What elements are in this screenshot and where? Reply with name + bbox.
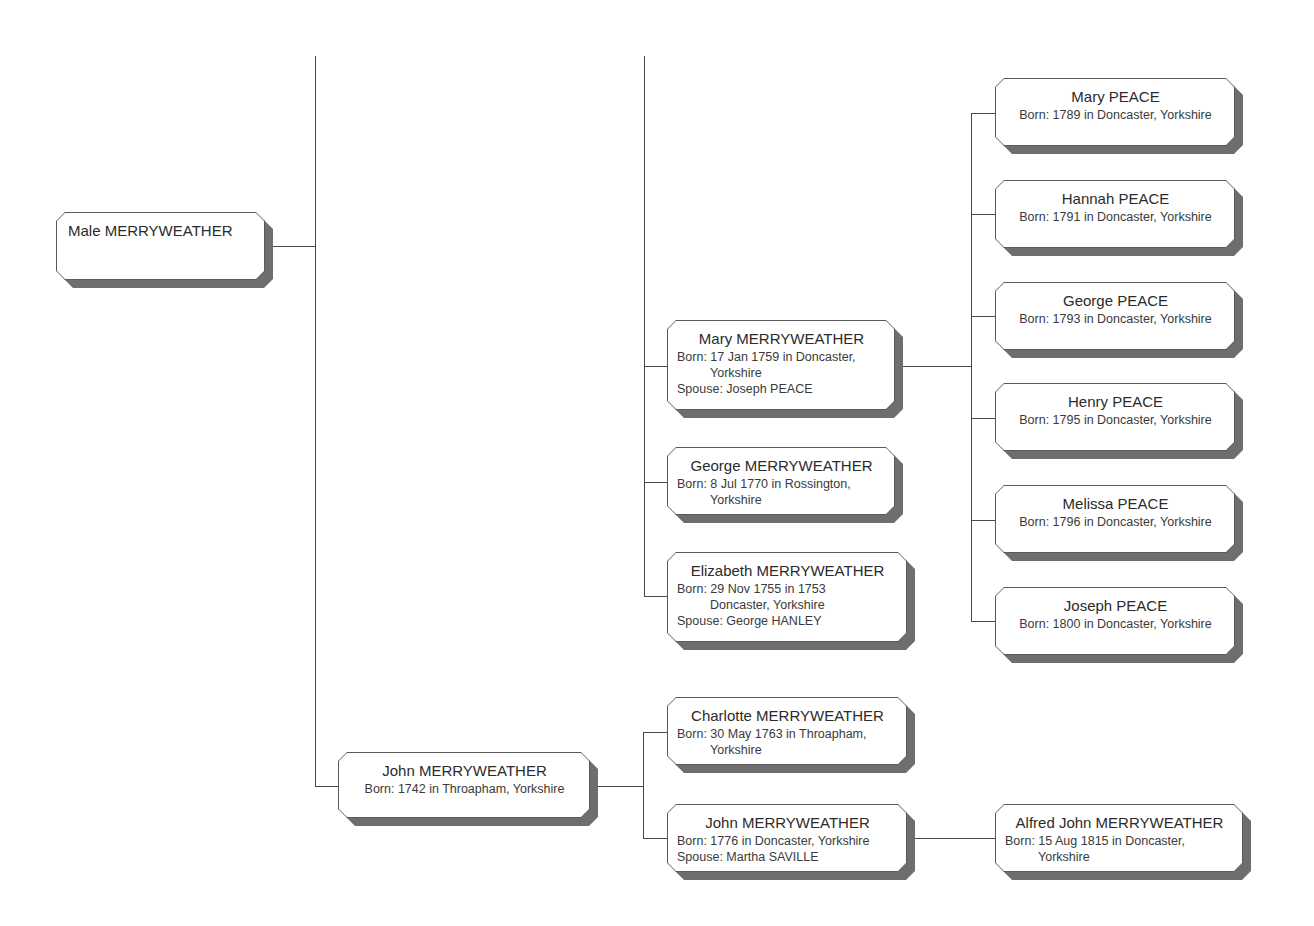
person-box-elizabeth-merryweather[interactable]: Elizabeth MERRYWEATHER Born: 29 Nov 1755… xyxy=(667,552,907,642)
connector-to-henry-peace xyxy=(971,418,996,419)
birth-info-continued: Yorkshire xyxy=(677,742,898,758)
person-name: Joseph PEACE xyxy=(1005,596,1226,616)
birth-info: Born: 29 Nov 1755 in 1753 xyxy=(677,581,898,597)
connector-to-charlotte xyxy=(643,732,668,733)
connector-to-joseph-peace xyxy=(971,621,996,622)
connector-male-to-trunk xyxy=(272,246,316,247)
spouse-info: Spouse: Joseph PEACE xyxy=(677,381,886,397)
person-name: John MERRYWEATHER xyxy=(348,761,581,781)
connector-mary-m-to-peace-trunk xyxy=(903,366,972,367)
connector-to-mary-m xyxy=(644,366,668,367)
person-box-john-merryweather-1776[interactable]: John MERRYWEATHER Born: 1776 in Doncaste… xyxy=(667,804,907,872)
birth-info: Born: 1742 in Throapham, Yorkshire xyxy=(348,781,581,797)
connector-to-melissa-peace xyxy=(971,520,996,521)
birth-info: Born: 17 Jan 1759 in Doncaster, xyxy=(677,349,886,365)
person-box-henry-peace[interactable]: Henry PEACE Born: 1795 in Doncaster, Yor… xyxy=(995,383,1235,451)
connector-peace-trunk xyxy=(971,113,972,622)
person-name: Melissa PEACE xyxy=(1005,494,1226,514)
birth-info: Born: 1796 in Doncaster, Yorkshire xyxy=(1005,514,1226,530)
connector-to-hannah-peace xyxy=(971,214,996,215)
person-box-charlotte-merryweather[interactable]: Charlotte MERRYWEATHER Born: 30 May 1763… xyxy=(667,697,907,765)
person-name: Henry PEACE xyxy=(1005,392,1226,412)
birth-info: Born: 1776 in Doncaster, Yorkshire xyxy=(677,833,898,849)
person-box-mary-peace[interactable]: Mary PEACE Born: 1789 in Doncaster, York… xyxy=(995,78,1235,146)
connector-to-george-m xyxy=(644,482,668,483)
birth-info: Born: 1791 in Doncaster, Yorkshire xyxy=(1005,209,1226,225)
birth-info-continued: Yorkshire xyxy=(677,492,886,508)
person-box-george-merryweather[interactable]: George MERRYWEATHER Born: 8 Jul 1770 in … xyxy=(667,447,895,515)
connector-john-1776-to-alfred xyxy=(914,838,995,839)
spouse-info: Spouse: Martha SAVILLE xyxy=(677,849,898,865)
person-box-mary-merryweather[interactable]: Mary MERRYWEATHER Born: 17 Jan 1759 in D… xyxy=(667,320,895,410)
person-box-joseph-peace[interactable]: Joseph PEACE Born: 1800 in Doncaster, Yo… xyxy=(995,587,1235,655)
person-name: Mary MERRYWEATHER xyxy=(677,329,886,349)
connector-trunk-gen1 xyxy=(315,56,316,787)
person-name: Elizabeth MERRYWEATHER xyxy=(677,561,898,581)
birth-info: Born: 15 Aug 1815 in Doncaster, xyxy=(1005,833,1234,849)
birth-info: Born: 1789 in Doncaster, Yorkshire xyxy=(1005,107,1226,123)
birth-info: Born: 1793 in Doncaster, Yorkshire xyxy=(1005,311,1226,327)
person-name: Charlotte MERRYWEATHER xyxy=(677,706,898,726)
birth-info: Born: 30 May 1763 in Throapham, xyxy=(677,726,898,742)
connector-john-1742-to-trunk xyxy=(598,786,644,787)
connector-to-mary-peace xyxy=(971,113,996,114)
birth-info-continued: Doncaster, Yorkshire xyxy=(677,597,898,613)
connector-trunk-gen2-lower xyxy=(643,732,644,838)
person-name: Alfred John MERRYWEATHER xyxy=(1005,813,1234,833)
birth-info: Born: 1795 in Doncaster, Yorkshire xyxy=(1005,412,1226,428)
person-name: Male MERRYWEATHER xyxy=(66,221,256,241)
birth-info-continued: Yorkshire xyxy=(677,365,886,381)
birth-info: Born: 1800 in Doncaster, Yorkshire xyxy=(1005,616,1226,632)
connector-to-elizabeth-m xyxy=(644,596,668,597)
birth-info-continued: Yorkshire xyxy=(1005,849,1234,865)
person-box-george-peace[interactable]: George PEACE Born: 1793 in Doncaster, Yo… xyxy=(995,282,1235,350)
connector-trunk-to-john-1742 xyxy=(315,786,339,787)
person-box-hannah-peace[interactable]: Hannah PEACE Born: 1791 in Doncaster, Yo… xyxy=(995,180,1235,248)
connector-to-george-peace xyxy=(971,316,996,317)
person-box-alfred-john-merryweather[interactable]: Alfred John MERRYWEATHER Born: 15 Aug 18… xyxy=(995,804,1243,872)
person-name: George MERRYWEATHER xyxy=(677,456,886,476)
birth-info: Born: 8 Jul 1770 in Rossington, xyxy=(677,476,886,492)
connector-trunk-gen2-upper xyxy=(644,56,645,597)
person-name: George PEACE xyxy=(1005,291,1226,311)
person-box-male-merryweather[interactable]: Male MERRYWEATHER xyxy=(56,212,265,280)
person-name: John MERRYWEATHER xyxy=(677,813,898,833)
person-name: Mary PEACE xyxy=(1005,87,1226,107)
connector-to-john-1776 xyxy=(643,838,668,839)
person-name: Hannah PEACE xyxy=(1005,189,1226,209)
spouse-info: Spouse: George HANLEY xyxy=(677,613,898,629)
person-box-melissa-peace[interactable]: Melissa PEACE Born: 1796 in Doncaster, Y… xyxy=(995,485,1235,553)
person-box-john-merryweather-1742[interactable]: John MERRYWEATHER Born: 1742 in Throapha… xyxy=(338,752,590,818)
